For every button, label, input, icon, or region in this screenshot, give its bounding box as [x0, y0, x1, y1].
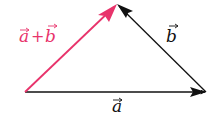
vector-b-arrowhead-icon [117, 4, 133, 18]
vector-diagram: a b a + b [0, 0, 211, 120]
label-b-text: b [166, 26, 177, 46]
vector-sum-arrow [25, 7, 114, 92]
label-sum-b-text: b [45, 26, 56, 46]
label-a: a [112, 96, 122, 116]
label-b: b [166, 24, 178, 46]
label-sum: a + b [19, 24, 57, 46]
label-sum-plus-text: + [31, 27, 44, 46]
vector-b-arrow [119, 6, 206, 92]
